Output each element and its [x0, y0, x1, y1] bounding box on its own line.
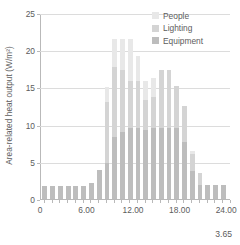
x-tick-mark-minor	[152, 200, 153, 203]
x-tick-mark-minor	[168, 200, 169, 203]
bar-segment-equipment	[221, 185, 226, 199]
bar-group	[66, 13, 71, 199]
x-tick-mark-minor	[214, 200, 215, 203]
x-tick-label: 12.00	[123, 205, 144, 215]
y-tick-mark	[37, 88, 40, 89]
legend-swatch-icon	[152, 25, 159, 32]
x-tick-mark-minor	[183, 200, 184, 203]
bar-segment-equipment	[58, 186, 63, 199]
bar-segment-equipment	[136, 128, 141, 199]
bar-segment-lighting	[136, 81, 141, 129]
bar-segment-people	[120, 39, 125, 70]
x-tick-label: 24.00	[216, 205, 237, 215]
bar-group	[97, 13, 102, 199]
x-tick-mark-minor	[67, 200, 68, 203]
bar-group	[221, 13, 226, 199]
x-tick-mark-minor	[121, 200, 122, 203]
x-tick-mark-minor	[222, 200, 223, 203]
bar-segment-equipment	[167, 128, 172, 199]
bar-group	[112, 13, 117, 199]
bar-segment-equipment	[42, 186, 47, 199]
y-tick-mark	[37, 51, 40, 52]
bar-segment-equipment	[50, 186, 55, 199]
bar-group	[89, 13, 94, 199]
bar-segment-equipment	[190, 171, 195, 199]
bar-segment-equipment	[182, 142, 187, 199]
x-tick-mark-minor	[75, 200, 76, 203]
x-tick-mark-minor	[90, 200, 91, 203]
x-tick-mark-minor	[52, 200, 53, 203]
x-tick-mark-minor	[59, 200, 60, 203]
bar-segment-equipment	[174, 128, 179, 199]
bar-segment-equipment	[128, 128, 133, 199]
bar-segment-equipment	[112, 137, 117, 199]
bar-segment-lighting	[190, 154, 195, 171]
y-tick-label: 15	[26, 83, 35, 93]
x-tick-mark-minor	[98, 200, 99, 203]
x-tick-mark-minor	[160, 200, 161, 203]
x-tick-mark-minor	[137, 200, 138, 203]
bar-segment-people	[143, 81, 148, 100]
bar-segment-lighting	[143, 100, 148, 130]
bar-group	[58, 13, 63, 199]
bar-segment-people	[151, 78, 156, 97]
bar-segment-lighting	[105, 102, 110, 163]
legend-swatch-icon	[152, 37, 159, 44]
x-tick-mark-minor	[129, 200, 130, 203]
bar-group	[81, 13, 86, 199]
bar-group	[136, 13, 141, 199]
bar-segment-equipment	[73, 186, 78, 199]
legend-item: Equipment	[152, 35, 203, 46]
legend-item: People	[152, 10, 203, 21]
bar-segment-lighting	[120, 70, 125, 132]
legend-label: People	[163, 11, 189, 21]
bar-segment-equipment	[159, 128, 164, 199]
bar-segment-people	[105, 87, 110, 101]
bar-segment-equipment	[89, 183, 94, 199]
x-tick-mark-minor	[114, 200, 115, 203]
bar-segment-people	[190, 151, 195, 154]
chart-legend: PeopleLightingEquipment	[152, 10, 203, 46]
bar-segment-equipment	[205, 185, 210, 199]
bar-segment-lighting	[112, 67, 117, 137]
y-tick-label: 10	[26, 121, 35, 131]
y-tick-mark	[37, 200, 40, 201]
legend-label: Lighting	[163, 23, 192, 33]
chart-figure: Area-related heat output (W/m²) 05101520…	[0, 0, 240, 245]
bar-group	[120, 13, 125, 199]
y-tick-mark	[37, 126, 40, 127]
x-tick-mark-minor	[191, 200, 192, 203]
bar-segment-lighting	[151, 97, 156, 128]
bar-segment-equipment	[66, 186, 71, 199]
x-tick-mark-minor	[106, 200, 107, 203]
bar-segment-equipment	[213, 185, 218, 199]
bar-segment-lighting	[174, 86, 179, 128]
bar-segment-lighting	[128, 81, 133, 127]
bar-segment-equipment	[97, 170, 102, 199]
legend-label: Equipment	[163, 36, 203, 46]
bar-segment-equipment	[151, 128, 156, 199]
x-tick-mark-minor	[230, 200, 231, 203]
bar-segment-equipment	[81, 186, 86, 199]
bar-segment-equipment	[143, 130, 148, 199]
x-tick-mark-minor	[44, 200, 45, 203]
x-tick-label: 18.00	[169, 205, 190, 215]
bar-segment-equipment	[105, 163, 110, 199]
corner-note: 3.65	[215, 229, 232, 239]
bar-group	[205, 13, 210, 199]
bar-segment-lighting	[182, 106, 187, 142]
x-tick-mark-minor	[207, 200, 208, 203]
bar-group	[105, 13, 110, 199]
bar-segment-people	[128, 39, 133, 81]
bar-segment-equipment	[120, 132, 125, 199]
y-tick-mark	[37, 163, 40, 164]
x-tick-label: 6.00	[78, 205, 94, 215]
bar-segment-people	[112, 39, 117, 67]
x-tick-label: 0	[38, 205, 43, 215]
x-tick-mark-minor	[176, 200, 177, 203]
legend-item: Lighting	[152, 23, 203, 34]
x-axis-line	[40, 199, 230, 200]
x-tick-mark-minor	[145, 200, 146, 203]
y-tick-label: 0	[30, 195, 35, 205]
y-tick-mark	[37, 14, 40, 15]
